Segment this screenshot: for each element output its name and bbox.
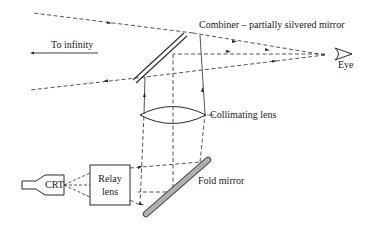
ray-arrow bbox=[138, 166, 143, 170]
relay-lens-label-line1: Relay bbox=[90, 174, 130, 184]
ray-arrow bbox=[107, 21, 112, 25]
to-infinity-label: To infinity bbox=[51, 40, 93, 50]
collimating-lens-label: Collimating lens bbox=[210, 110, 276, 120]
fold-mirror-label: Fold mirror bbox=[198, 176, 244, 186]
hud-optics-diagram bbox=[0, 0, 369, 231]
ray-arrow bbox=[232, 40, 237, 43]
lower-ray bbox=[30, 55, 325, 90]
ray-arrow bbox=[265, 48, 270, 52]
crt-label: CRT bbox=[45, 180, 64, 190]
eye-label: Eye bbox=[338, 60, 354, 70]
fold-mirror bbox=[146, 160, 208, 214]
ray-arrow bbox=[103, 79, 108, 83]
ray-arrow bbox=[226, 50, 231, 54]
relay-lens-box bbox=[90, 165, 130, 205]
relay-lens-label-line2: lens bbox=[90, 187, 130, 197]
combiner-label: Combiner – partially silvered mirror bbox=[199, 20, 345, 30]
crt-to-relay-rays bbox=[64, 173, 90, 197]
ray-arrow bbox=[143, 92, 146, 97]
